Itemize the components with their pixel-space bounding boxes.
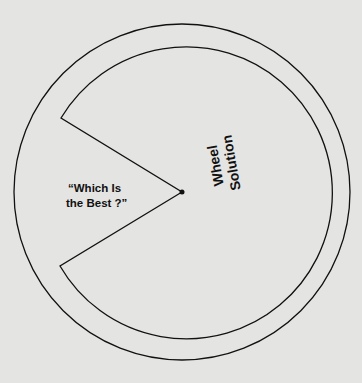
pivot-point — [180, 190, 185, 195]
solution-wheel-diagram: “Which Is the Best ?” Solution Wheel — [0, 0, 362, 383]
wedge-label-line1: “Which Is — [68, 182, 121, 194]
wedge-label-line2: the Best ?” — [66, 197, 127, 209]
